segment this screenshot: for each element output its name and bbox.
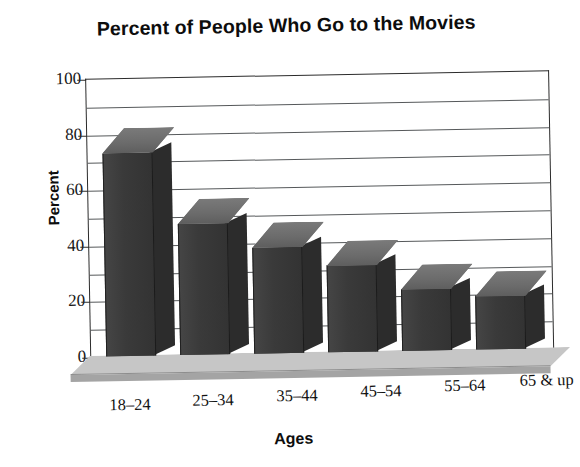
x-category-label-1: 18–24 xyxy=(109,395,151,416)
bar-25-34[interactable] xyxy=(177,198,230,355)
bar-front-face xyxy=(252,247,304,354)
bar-front-face xyxy=(103,153,157,357)
chart-canvas: Percent of People Who Go to the Movies P… xyxy=(0,0,580,467)
bar-55-64[interactable] xyxy=(401,264,453,351)
y-axis-tick-labels: 0 20 40 60 80 100 xyxy=(37,79,86,358)
bar-front-face xyxy=(327,264,379,352)
bar-series xyxy=(85,70,554,356)
x-axis-title: Ages xyxy=(4,425,580,454)
x-category-label-2: 25–34 xyxy=(192,390,234,411)
bar-45-54[interactable] xyxy=(326,240,378,352)
x-category-label-3: 35–44 xyxy=(276,386,318,407)
bar-front-face xyxy=(475,295,526,350)
bar-front-face xyxy=(178,223,230,355)
x-category-label-4: 45–54 xyxy=(360,381,402,402)
bar-35-44[interactable] xyxy=(252,222,304,354)
bar-65-and-up[interactable] xyxy=(475,271,526,350)
bar-18-24[interactable] xyxy=(102,128,156,357)
chart-title: Percent of People Who Go to the Movies xyxy=(0,9,576,43)
bar-front-face xyxy=(401,288,452,351)
x-category-label-6: 65 & up xyxy=(520,370,574,391)
x-category-label-5: 55–64 xyxy=(444,375,486,396)
x-axis-category-labels: 18–24 25–34 35–44 45–54 55–64 65 & up xyxy=(75,381,575,416)
